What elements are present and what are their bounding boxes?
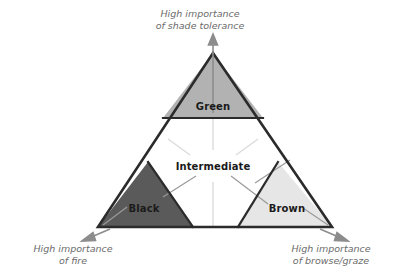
axis-label-shade-tolerance: High importance of shade tolerance: [0, 8, 400, 32]
zone-label-intermediate: Intermediate: [176, 161, 251, 172]
figure-canvas: High importance of shade tolerance High …: [0, 0, 400, 278]
zone-label-green: Green: [196, 101, 230, 112]
arrow-down-left-icon: [82, 229, 110, 241]
ternary-triangle-diagram: [0, 0, 400, 278]
arrow-down-right-icon: [320, 229, 348, 241]
axis-label-browse-graze: High importance of browse/graze: [266, 243, 396, 267]
axis-label-fire: High importance of fire: [8, 243, 138, 267]
zone-label-black: Black: [129, 203, 160, 214]
zone-label-brown: Brown: [269, 203, 305, 214]
